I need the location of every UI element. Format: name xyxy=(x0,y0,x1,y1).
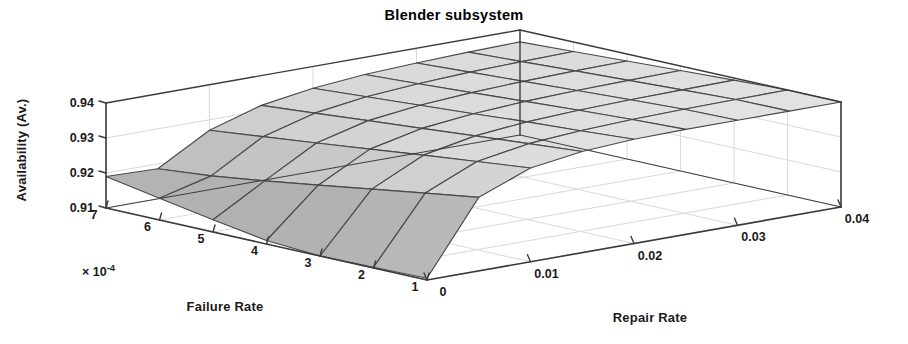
y-tick-label: 0 xyxy=(440,285,447,299)
z-tick-label: 0.93 xyxy=(70,131,94,145)
page-title: Blender subsystem xyxy=(385,7,524,23)
y-tick-label: 0.04 xyxy=(845,212,869,226)
y-axis-label: Repair Rate xyxy=(613,310,687,325)
x-tick-label: 3 xyxy=(305,256,312,270)
chart-figure: Blender subsystem 0.940.930.920.91765432… xyxy=(0,0,908,344)
z-axis-label: Availability (Av.) xyxy=(14,99,29,202)
y-tick-label: 0.01 xyxy=(534,267,558,281)
x-tick-label: 6 xyxy=(144,220,151,234)
y-tick-label: 0.03 xyxy=(741,230,765,244)
plot-labels-layer: Blender subsystem 0.940.930.920.91765432… xyxy=(0,0,908,344)
x-tick-label: 2 xyxy=(358,268,365,282)
x-tick-label: 4 xyxy=(251,244,258,258)
x-tick-label: 7 xyxy=(91,208,98,222)
z-tick-label: 0.92 xyxy=(70,166,94,180)
z-tick-label: 0.94 xyxy=(70,96,94,110)
x-tick-label: 5 xyxy=(198,232,205,246)
y-tick-label: 0.02 xyxy=(638,249,662,263)
x-axis-exponent: × 10-4 xyxy=(82,262,116,279)
x-axis-label: Failure Rate xyxy=(187,299,264,314)
x-tick-label: 1 xyxy=(412,280,419,294)
